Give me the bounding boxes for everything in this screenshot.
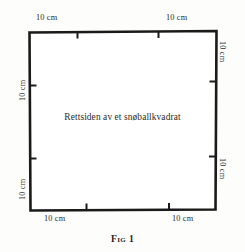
square-diagram (0, 0, 245, 252)
dimension-label-top-right: 10 cm (166, 14, 187, 22)
dimension-label-bottom-left: 10 cm (44, 215, 65, 223)
square-inner-label: Rettsiden av et snøballkvadrat (0, 112, 245, 122)
dimension-label-top-left: 10 cm (36, 14, 57, 22)
dimension-label-bottom-right: 10 cm (172, 215, 193, 223)
dimension-label-right-lower: 10 cm (218, 158, 226, 179)
dimension-label-right-upper: 10 cm (218, 41, 226, 62)
dimension-label-left-upper: 10 cm (19, 80, 27, 101)
figure-caption: Fig 1 (0, 233, 245, 244)
dimension-label-left-lower: 10 cm (19, 179, 27, 200)
figure-container: 10 cm 10 cm 10 cm 10 cm 10 cm 10 cm 10 c… (0, 0, 245, 252)
